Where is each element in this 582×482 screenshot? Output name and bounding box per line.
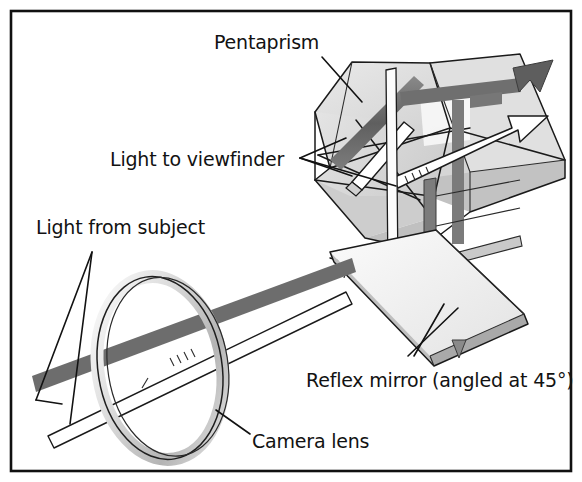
beam-tick (142, 378, 148, 388)
label-light-from-subject: Light from subject (36, 216, 205, 238)
slr-optical-diagram: Pentaprism Light to viewfinder Light fro… (0, 0, 582, 482)
label-light-to-viewfinder: Light to viewfinder (110, 148, 284, 170)
structure-mid-rail (436, 208, 520, 226)
camera-lens (84, 266, 241, 468)
light-from-subject-leader (36, 252, 92, 424)
incoming-light-beam (32, 258, 356, 448)
label-camera-lens: Camera lens (252, 430, 369, 452)
leader-subject-base (36, 400, 62, 404)
label-reflex-mirror: Reflex mirror (angled at 45°) (306, 369, 573, 391)
diagram-canvas: Pentaprism Light to viewfinder Light fro… (0, 0, 582, 482)
beam-hatch-marks (170, 349, 195, 366)
label-pentaprism: Pentaprism (214, 31, 319, 53)
leader-subject-right (70, 252, 92, 424)
